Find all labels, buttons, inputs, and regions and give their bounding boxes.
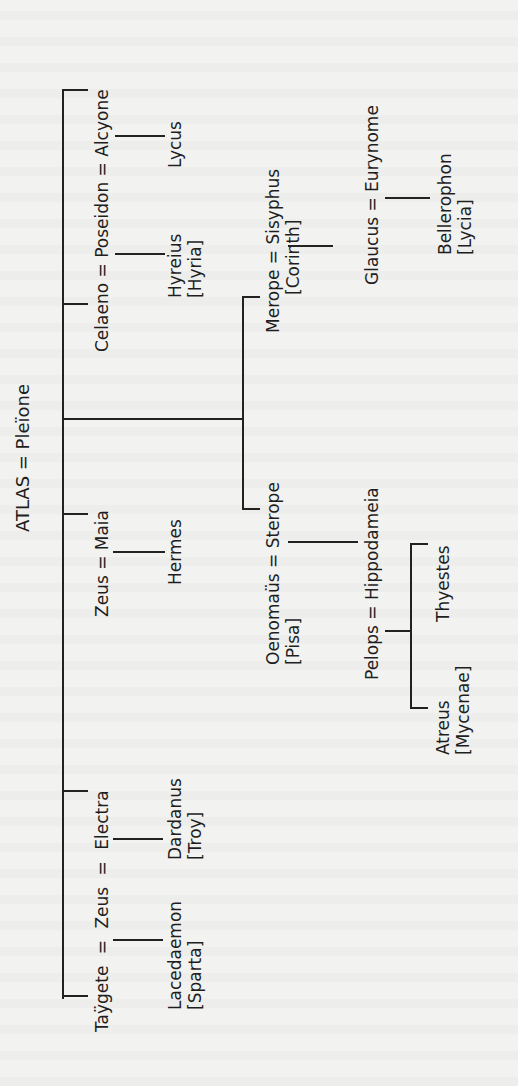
pisa-place: [Pisa] — [283, 482, 303, 665]
line-sisyphus-glaucus — [288, 245, 333, 247]
bellerophon-name: Bellerophon — [435, 153, 455, 255]
line-zeus-hermes — [113, 551, 165, 553]
atreus-name: Atreus — [433, 666, 453, 755]
branch-sterope-merope — [62, 418, 244, 420]
pelops-hippodameia-label: Pelops = Hippodameia — [362, 487, 382, 680]
branch-sterope — [242, 508, 260, 510]
dardanus-place: [Troy] — [185, 778, 205, 860]
line-pelops-children — [385, 630, 411, 632]
glaucus-eurynome-label: Glaucus = Eurynome — [362, 105, 382, 285]
branch-celaeno — [62, 303, 88, 305]
oenomaus-sterope-name: Oenomaüs = Sterope — [263, 482, 283, 665]
atreus-place: [Mycenae] — [453, 666, 473, 755]
line-zeus-lacedaemon — [113, 939, 163, 941]
atreus-label: Atreus [Mycenae] — [433, 666, 473, 755]
taygete-zeus-electra-label: Taÿgete = Zeus = Electra — [92, 790, 112, 1032]
dardanus-label: Dardanus [Troy] — [165, 778, 205, 860]
merope-sisyphus-label: Merope = Sisyphus [Corinth] — [263, 169, 303, 333]
hyreius-label: Hyreius [Hyria] — [165, 234, 205, 298]
celaeno-poseidon-alcyone-label: Celaeno = Poseidon = Alcyone — [92, 89, 112, 352]
lacedaemon-name: Lacedaemon — [165, 901, 185, 1010]
hyreius-place: [Hyria] — [185, 234, 205, 298]
bellerophon-place: [Lycia] — [455, 153, 475, 255]
branch-taygete — [62, 995, 88, 997]
line-zeus-dardanus — [113, 838, 163, 840]
line-poseidon-lycus — [115, 135, 165, 137]
lacedaemon-place: [Sparta] — [185, 901, 205, 1010]
hyreius-name: Hyreius — [165, 234, 185, 298]
branch-merope — [242, 296, 260, 298]
zeus-maia-label: Zeus = Maia — [92, 510, 112, 617]
branch-thyestes — [410, 543, 428, 545]
merope-sisyphus-name: Merope = Sisyphus — [263, 169, 283, 333]
bellerophon-label: Bellerophon [Lycia] — [435, 153, 475, 255]
main-trunk-line — [62, 89, 64, 999]
sterope-merope-trunk — [242, 296, 244, 510]
thyestes-label: Thyestes — [433, 545, 453, 622]
branch-electra — [62, 790, 88, 792]
dardanus-name: Dardanus — [165, 778, 185, 860]
lycus-label: Lycus — [165, 121, 185, 168]
oenomaus-sterope-label: Oenomaüs = Sterope [Pisa] — [263, 482, 303, 665]
pelops-children-trunk — [410, 543, 412, 709]
branch-alcyone — [62, 89, 88, 91]
lacedaemon-label: Lacedaemon [Sparta] — [165, 901, 205, 1010]
line-poseidon-hyreius — [115, 253, 165, 255]
corinth-place: [Corinth] — [283, 169, 303, 333]
line-glaucus-bellerophon — [385, 197, 430, 199]
branch-atreus — [410, 707, 428, 709]
branch-maia — [62, 513, 88, 515]
line-oenomaus-hippodameia — [288, 541, 358, 543]
hermes-label: Hermes — [165, 519, 185, 585]
root-couple-label: ATLAS = Pleïone — [13, 384, 33, 532]
